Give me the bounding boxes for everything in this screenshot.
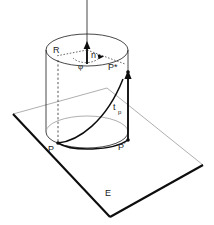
label-angle-phi: φ <box>78 61 83 71</box>
plane-edge-back-left <box>13 88 107 114</box>
label-height-vector-subscript: p <box>118 109 122 115</box>
radius-line-left <box>56 50 87 56</box>
cylinder-plane-diagram: n R φ t <box>0 0 214 225</box>
label-plane-E: E <box>105 188 111 198</box>
label-height-vector: t <box>113 102 116 112</box>
point-markers: P P ′ P* <box>48 62 130 154</box>
point-Pstar-marker <box>126 70 130 74</box>
point-Pprime-marker <box>126 138 130 142</box>
figure-container: n R φ t <box>0 0 214 225</box>
angle-arrow-head <box>98 54 105 59</box>
label-radius: R <box>53 45 60 55</box>
plane-edge-back-right <box>107 88 203 165</box>
label-normal-vector: n <box>91 50 96 60</box>
label-point-P: P <box>48 144 54 154</box>
plane-edge-front-left <box>13 114 110 217</box>
normal-vector-arrowhead <box>84 41 91 49</box>
point-P-marker <box>56 141 60 145</box>
plane-edge-front-right <box>110 165 203 217</box>
label-point-Pstar: P* <box>108 62 118 72</box>
